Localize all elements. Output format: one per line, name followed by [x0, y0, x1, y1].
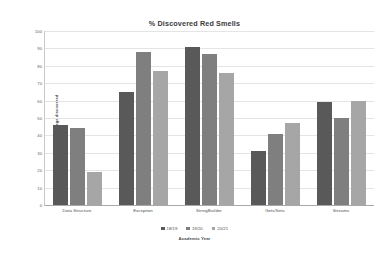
x-axis-title: Academic Year	[0, 236, 389, 241]
y-axis-tick: 10	[25, 185, 42, 190]
y-axis-tick: 0	[25, 203, 42, 208]
legend-item[interactable]: 20/21	[212, 226, 228, 231]
x-axis-tick: Streams	[308, 208, 374, 213]
bar	[285, 123, 300, 205]
chart-container: % Discovered Red Smells Percentage disco…	[0, 0, 389, 265]
y-axis-tick: 80	[25, 63, 42, 68]
x-axis-tick: Data Structure	[44, 208, 110, 213]
bar	[53, 125, 68, 205]
bar	[268, 134, 283, 205]
y-axis-tick: 100	[25, 29, 42, 34]
bar	[251, 151, 266, 205]
legend-swatch-icon	[212, 227, 216, 231]
bar-group	[45, 31, 111, 205]
legend-label: 18/19	[167, 226, 178, 231]
bar-group	[111, 31, 177, 205]
x-axis-tick-labels: Data StructureExceptionStringBuilderGets…	[44, 208, 374, 213]
legend: 18/1919/2020/21	[0, 226, 389, 231]
legend-swatch-icon	[186, 227, 190, 231]
y-axis-tick: 90	[25, 46, 42, 51]
x-axis-tick: Exception	[110, 208, 176, 213]
legend-label: 19/20	[192, 226, 203, 231]
bar-group	[308, 31, 374, 205]
y-axis-tick: 70	[25, 81, 42, 86]
bar	[87, 172, 102, 205]
legend-swatch-icon	[161, 227, 165, 231]
bar-group	[242, 31, 308, 205]
bar	[153, 71, 168, 205]
legend-item[interactable]: 18/19	[161, 226, 177, 231]
bar	[317, 102, 332, 205]
bar	[334, 118, 349, 205]
plot-area: Percentage discovered 010203040506070809…	[44, 31, 374, 206]
chart-title: % Discovered Red Smells	[0, 19, 389, 28]
y-axis-tick: 60	[25, 98, 42, 103]
bar	[70, 128, 85, 205]
y-axis-tick: 20	[25, 168, 42, 173]
y-axis-tick-labels: 0102030405060708090100	[25, 31, 42, 205]
bar-group	[177, 31, 243, 205]
bar	[119, 92, 134, 205]
y-axis-tick: 30	[25, 150, 42, 155]
bar	[202, 54, 217, 205]
bar	[219, 73, 234, 205]
y-axis-tick: 40	[25, 133, 42, 138]
y-axis-tick: 50	[25, 116, 42, 121]
legend-item[interactable]: 19/20	[186, 226, 202, 231]
bar	[136, 52, 151, 205]
legend-label: 20/21	[217, 226, 228, 231]
x-axis-tick: Gets/Sets	[242, 208, 308, 213]
x-axis-tick: StringBuilder	[176, 208, 242, 213]
bar	[185, 47, 200, 205]
bar	[351, 101, 366, 205]
bar-groups	[45, 31, 374, 205]
